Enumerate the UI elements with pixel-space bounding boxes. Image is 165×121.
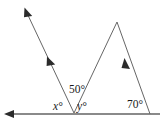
left-ray-tip-arrowhead-icon [24,8,32,18]
angle-label-70: 70° [127,99,143,111]
geometry-diagram: 50° x° y° 70° [0,0,165,121]
angle-label-y: y° [77,101,87,113]
angle-label-50: 50° [69,84,85,96]
left-ray-mid-arrowhead-icon [47,57,56,67]
baseline-left-arrowhead-icon [4,110,14,118]
angle-label-x: x° [53,101,63,113]
left-ray-group [24,8,74,114]
apex-right-side-mid-arrowhead-icon [122,58,131,69]
